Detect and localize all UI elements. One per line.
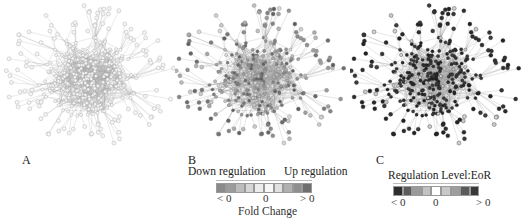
network-graph-b	[175, 0, 350, 165]
color-scale-swatch	[403, 186, 413, 196]
panel-c: C Regulation Level:EoR < 0 0 > 0	[350, 0, 525, 219]
color-scale-swatch	[235, 183, 245, 193]
color-scale-swatch	[441, 186, 451, 196]
color-scale-swatch	[451, 186, 461, 196]
legend-up-regulation: Up regulation	[284, 165, 348, 177]
tick-less-than-zero: < 0	[217, 192, 231, 204]
color-scale-swatch	[470, 186, 480, 196]
color-scale-swatch	[393, 186, 403, 196]
panel-label-c: C	[376, 153, 384, 168]
network-graph-c	[350, 0, 525, 165]
tick-zero: 0	[263, 192, 269, 204]
legend-down-regulation: Down regulation	[188, 165, 266, 177]
panel-a: A	[0, 0, 175, 219]
color-scale-swatch	[460, 186, 470, 196]
tick-less-than-zero-c: < 0	[391, 196, 405, 208]
tick-zero-c: 0	[433, 196, 439, 208]
color-scale-swatch	[283, 183, 293, 193]
tick-greater-than-zero: > 0	[300, 192, 314, 204]
tick-greater-than-zero-c: > 0	[476, 196, 490, 208]
network-graph-a	[0, 0, 175, 165]
color-scale-swatch	[422, 186, 432, 196]
color-scale-swatch	[274, 183, 284, 193]
regulation-level-color-scale	[393, 183, 479, 197]
panel-b: B Down regulation Up regulation < 0 0 > …	[175, 0, 350, 219]
fold-change-axis-title: Fold Change	[238, 205, 297, 217]
color-scale-swatch	[245, 183, 255, 193]
panel-label-a: A	[22, 153, 31, 168]
color-scale-swatch	[412, 186, 422, 196]
color-scale-swatch	[431, 186, 441, 196]
legend-regulation-level: Regulation Level:EoR	[388, 169, 491, 181]
